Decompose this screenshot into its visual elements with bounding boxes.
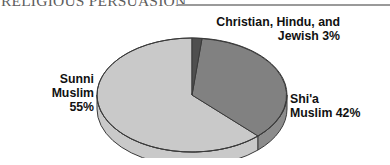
pie-label-sunni: Sunni Muslim 55% (22, 72, 94, 115)
pie-chart-svg (92, 33, 292, 158)
religious-persuasion-figure: RELIGIOUS PERSUASION Christian, Hindu, a… (0, 0, 390, 165)
pie-label-minority-line2: Jewish 3% (216, 29, 340, 43)
pie-label-shia-line2: Muslim 42% (290, 106, 360, 120)
pie-label-minority-line1: Christian, Hindu, and (216, 15, 340, 29)
pie-label-shia: Shi'a Muslim 42% (290, 92, 360, 120)
title-divider (178, 4, 390, 6)
pie-chart (92, 33, 292, 158)
page-title: RELIGIOUS PERSUASION (1, 0, 186, 10)
pie-label-minority: Christian, Hindu, and Jewish 3% (216, 15, 340, 43)
pie-label-sunni-line3: 55% (22, 100, 94, 114)
pie-label-sunni-line1: Sunni (22, 72, 94, 86)
pie-label-shia-line1: Shi'a (290, 92, 360, 106)
figure-header: RELIGIOUS PERSUASION (0, 0, 390, 12)
pie-label-sunni-line2: Muslim (22, 86, 94, 100)
